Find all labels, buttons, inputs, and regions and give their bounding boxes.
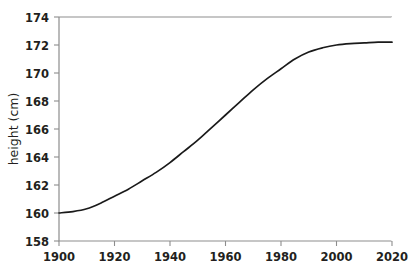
x-tick-label: 1900 (43, 250, 75, 264)
x-tick-label: 1980 (265, 250, 297, 264)
x-tick-label: 2000 (320, 250, 352, 264)
y-tick-label: 160 (25, 207, 49, 221)
y-tick-labels: 174 172 170 168 166 164 162 160 158 (25, 11, 49, 249)
x-tickmarks (59, 241, 392, 246)
y-tick-label: 174 (25, 11, 49, 25)
x-tick-label: 1940 (154, 250, 186, 264)
x-tick-labels: 1900 1920 1940 1960 1980 2000 2020 (43, 250, 408, 264)
plot-area-background (59, 17, 392, 241)
y-tickmarks (54, 17, 59, 241)
y-tick-label: 168 (25, 95, 49, 109)
y-tick-label: 172 (25, 39, 49, 53)
y-tick-label: 158 (25, 235, 49, 249)
x-tick-label: 1920 (98, 250, 130, 264)
y-tick-label: 166 (25, 123, 49, 137)
chart-figure: 174 172 170 168 166 164 162 160 158 1900… (0, 0, 410, 275)
y-tick-label: 164 (25, 151, 49, 165)
y-tick-label: 162 (25, 179, 49, 193)
line-chart: 174 172 170 168 166 164 162 160 158 1900… (0, 0, 410, 275)
y-axis-title: height (cm) (6, 93, 21, 166)
x-tick-label: 1960 (209, 250, 241, 264)
y-tick-label: 170 (25, 67, 49, 81)
x-tick-label: 2020 (376, 250, 408, 264)
